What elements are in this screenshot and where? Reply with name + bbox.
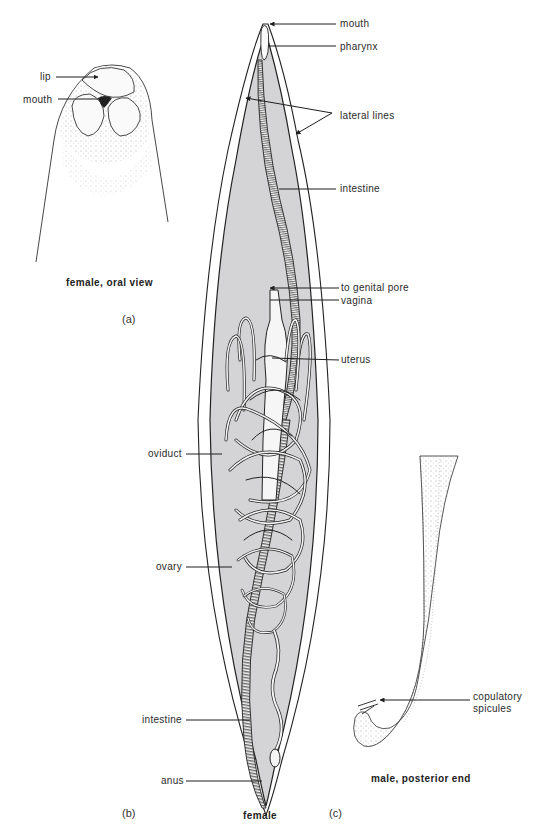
oral-view-head [36, 65, 168, 262]
caption-male-posterior: male, posterior end [371, 773, 471, 784]
nematode-diagram [0, 0, 542, 837]
label-lip: lip [40, 71, 51, 83]
label-pharynx: pharynx [340, 41, 378, 53]
lateral-lines-pointer-2 [296, 113, 332, 134]
caption-female: female [243, 810, 277, 821]
label-intestine-upper: intestine [340, 183, 380, 195]
panel-label-a: (a) [122, 313, 135, 325]
label-to-genital-pore: to genital pore [341, 282, 409, 294]
label-oviduct: oviduct [148, 448, 182, 460]
pharynx [261, 26, 269, 60]
male-tail-body [354, 456, 458, 746]
uterus-bulb [270, 749, 280, 767]
label-ovary: ovary [156, 561, 182, 573]
label-spicules: spicules [473, 703, 512, 715]
panel-label-c: (c) [329, 807, 342, 819]
label-vagina: vagina [341, 295, 372, 307]
male-posterior-end [354, 456, 470, 746]
label-lateral-lines: lateral lines [340, 110, 394, 122]
label-anus: anus [161, 775, 184, 787]
label-mouth-b: mouth [340, 18, 369, 30]
female-body [186, 24, 339, 815]
label-uterus: uterus [341, 354, 371, 366]
panel-label-b: (b) [122, 807, 135, 819]
caption-oral-view: female, oral view [66, 277, 153, 288]
label-intestine-lower: intestine [142, 714, 182, 726]
label-copulatory: copulatory [473, 691, 522, 703]
label-mouth-a: mouth [23, 94, 52, 106]
